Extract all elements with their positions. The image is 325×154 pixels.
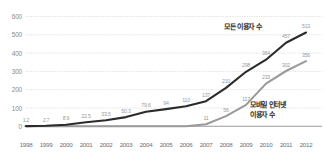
y-tick-200: 200 bbox=[0, 86, 22, 93]
data-label-all-1998: 1.2 bbox=[16, 117, 36, 123]
y-tick-300: 300 bbox=[0, 68, 22, 75]
data-label-all-2007: 137 bbox=[196, 92, 216, 98]
y-tick-500: 500 bbox=[0, 31, 22, 38]
x-tick-2003: 2003 bbox=[115, 141, 137, 148]
x-tick-2009: 2009 bbox=[235, 141, 257, 148]
data-label-all-1999: 2.7 bbox=[36, 117, 56, 123]
data-label-all-2001: 22.5 bbox=[76, 113, 96, 119]
data-label-all-2004: 79.6 bbox=[136, 102, 156, 108]
data-label-mobile-2007: 11 bbox=[196, 115, 216, 121]
data-label-mobile-2012: 356 bbox=[296, 52, 316, 58]
mobile-users-label-line1: 모바일 인터넷 bbox=[250, 100, 286, 110]
x-tick-1998: 1998 bbox=[15, 141, 37, 148]
data-label-mobile-2011: 302 bbox=[276, 62, 296, 68]
y-tick-100: 100 bbox=[0, 105, 22, 112]
chart-canvas bbox=[0, 0, 325, 154]
data-label-all-2003: 50.3 bbox=[116, 108, 136, 114]
data-label-all-2012: 513 bbox=[296, 23, 316, 29]
data-label-mobile-2010: 233 bbox=[256, 74, 276, 80]
x-tick-2000: 2000 bbox=[55, 141, 77, 148]
x-tick-1999: 1999 bbox=[35, 141, 57, 148]
mobile-users-label-line2: 이용자 수 bbox=[250, 110, 286, 120]
data-label-all-2005: 94 bbox=[156, 100, 176, 106]
x-tick-2007: 2007 bbox=[195, 141, 217, 148]
x-tick-2010: 2010 bbox=[255, 141, 277, 148]
all-users-label: 모든 이용자 수 bbox=[224, 22, 262, 32]
data-label-all-2011: 457 bbox=[276, 33, 296, 39]
data-label-mobile-2008: 56 bbox=[216, 107, 236, 113]
y-tick-400: 400 bbox=[0, 50, 22, 57]
x-tick-2005: 2005 bbox=[155, 141, 177, 148]
x-tick-2004: 2004 bbox=[135, 141, 157, 148]
x-tick-2006: 2006 bbox=[175, 141, 197, 148]
y-tick-0: 0 bbox=[0, 123, 22, 130]
x-tick-2012: 2012 bbox=[295, 141, 317, 148]
data-label-all-2002: 33.5 bbox=[96, 111, 116, 117]
data-label-all-2006: 110 bbox=[176, 97, 196, 103]
y-tick-600: 600 bbox=[0, 13, 22, 20]
data-label-all-2009: 298 bbox=[236, 62, 256, 68]
x-tick-2001: 2001 bbox=[75, 141, 97, 148]
x-tick-2008: 2008 bbox=[215, 141, 237, 148]
data-label-all-2000: 8.9 bbox=[56, 115, 76, 121]
x-tick-2002: 2002 bbox=[95, 141, 117, 148]
x-tick-2011: 2011 bbox=[275, 141, 297, 148]
mobile-users-label: 모바일 인터넷 이용자 수 bbox=[250, 100, 286, 119]
line-chart: 600 500 400 300 200 100 0 1998 1999 2000… bbox=[0, 0, 325, 154]
data-label-all-2008: 210 bbox=[216, 78, 236, 84]
data-label-all-2010: 364 bbox=[256, 50, 276, 56]
